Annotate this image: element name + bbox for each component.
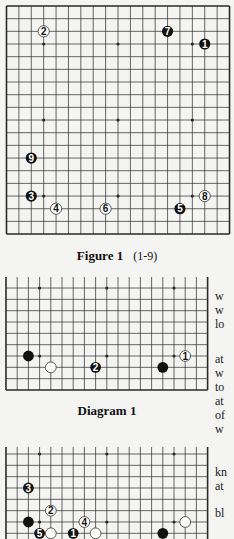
black-stone — [23, 517, 34, 528]
side-text-line: at — [215, 352, 225, 366]
go-board-diagram2: 12345 — [0, 0, 234, 539]
diagram2-board: 12345 — [0, 0, 234, 539]
move-number: 3 — [26, 483, 32, 494]
side-text-line: kn — [215, 465, 227, 479]
side-text-line: lo — [215, 317, 224, 331]
move-number: 4 — [82, 517, 88, 528]
star-point — [172, 452, 175, 455]
side-text-line: to — [215, 380, 225, 394]
move-number: 2 — [48, 505, 54, 516]
side-text-line: w — [215, 289, 224, 303]
white-stone-2: 2 — [45, 505, 56, 516]
side-text-line: at — [215, 479, 227, 493]
side-text-line: of — [215, 408, 225, 422]
side-text-line: bl — [215, 506, 224, 520]
white-stone — [180, 517, 191, 528]
move-number: 5 — [37, 528, 43, 539]
star-point — [172, 520, 175, 523]
side-text-block-2: at w to at of w — [215, 352, 225, 436]
side-text-line: w — [215, 303, 224, 317]
side-text-block-4: bl — [215, 506, 224, 520]
white-stone — [45, 528, 56, 539]
black-stone — [157, 528, 168, 539]
side-text-line: w — [215, 366, 225, 380]
black-stone-5: 5 — [34, 528, 45, 539]
side-text-line: at — [215, 394, 225, 408]
white-stone-4: 4 — [79, 517, 90, 528]
star-point — [38, 452, 41, 455]
move-number: 1 — [70, 528, 76, 539]
white-stone — [90, 528, 101, 539]
side-text-block-3: kn at — [215, 465, 227, 493]
black-stone-1: 1 — [68, 528, 79, 539]
side-text-block-1: w w lo — [215, 289, 224, 331]
black-stone-3: 3 — [23, 483, 34, 494]
star-point — [105, 520, 108, 523]
star-point — [38, 520, 41, 523]
side-text-line: w — [215, 422, 225, 436]
star-point — [105, 452, 108, 455]
